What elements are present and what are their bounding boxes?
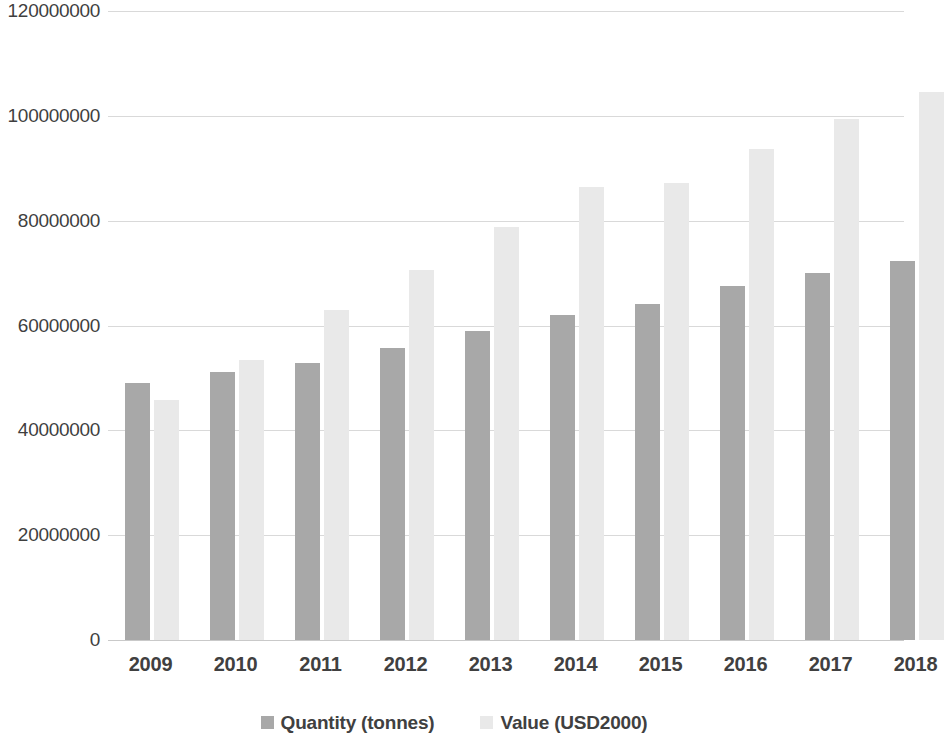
x-axis-tick-label: 2015	[618, 653, 703, 675]
y-axis-tick-label: 20000000	[0, 525, 100, 544]
y-axis-tick-label: 0	[0, 630, 100, 649]
bar[interactable]	[720, 286, 745, 640]
bar[interactable]	[154, 400, 179, 640]
bar-group	[363, 11, 448, 640]
bar[interactable]	[664, 183, 689, 640]
bar[interactable]	[635, 304, 660, 641]
legend-swatch-icon	[480, 716, 493, 729]
x-axis-tick-label: 2018	[873, 653, 948, 675]
bar-group	[108, 11, 193, 640]
legend-item[interactable]: Value (USD2000)	[480, 712, 647, 733]
bar-group	[703, 11, 788, 640]
chart-legend: Quantity (tonnes)Value (USD2000)	[0, 712, 908, 733]
plot-area	[108, 11, 904, 640]
legend-swatch-icon	[261, 716, 274, 729]
legend-label: Value (USD2000)	[500, 712, 647, 733]
bar[interactable]	[295, 363, 320, 640]
x-axis-tick-label: 2010	[193, 653, 278, 675]
bar-group	[448, 11, 533, 640]
bar[interactable]	[409, 270, 434, 640]
x-axis-tick-label: 2009	[108, 653, 193, 675]
bar[interactable]	[210, 372, 235, 640]
bar-group	[533, 11, 618, 640]
bar[interactable]	[890, 261, 915, 640]
y-axis-labels: 0200000004000000060000000800000001000000…	[0, 0, 100, 754]
bar-group	[278, 11, 363, 640]
bar[interactable]	[919, 92, 944, 640]
bar[interactable]	[749, 149, 774, 640]
bar[interactable]	[324, 310, 349, 640]
y-axis-tick-label: 100000000	[0, 106, 100, 125]
bar[interactable]	[465, 331, 490, 640]
bar[interactable]	[125, 383, 150, 640]
bar[interactable]	[805, 273, 830, 640]
bar[interactable]	[834, 119, 859, 640]
bar-group	[193, 11, 278, 640]
y-axis-tick-label: 40000000	[0, 420, 100, 439]
x-axis-tick-label: 2012	[363, 653, 448, 675]
x-axis-tick-label: 2016	[703, 653, 788, 675]
bar-group	[873, 11, 948, 640]
x-axis-tick-label: 2017	[788, 653, 873, 675]
y-axis-tick-label: 120000000	[0, 1, 100, 20]
y-axis-tick-label: 80000000	[0, 211, 100, 230]
legend-item[interactable]: Quantity (tonnes)	[261, 712, 435, 733]
legend-label: Quantity (tonnes)	[281, 712, 435, 733]
x-axis-line	[108, 640, 904, 641]
bar[interactable]	[380, 348, 405, 640]
bar[interactable]	[579, 187, 604, 640]
bar[interactable]	[550, 315, 575, 641]
bar-group	[618, 11, 703, 640]
x-axis-tick-label: 2011	[278, 653, 363, 675]
y-axis-tick-label: 60000000	[0, 316, 100, 335]
bar-group	[788, 11, 873, 640]
bar[interactable]	[239, 360, 264, 640]
x-axis-tick-label: 2013	[448, 653, 533, 675]
bar[interactable]	[494, 227, 519, 640]
x-axis-tick-label: 2014	[533, 653, 618, 675]
